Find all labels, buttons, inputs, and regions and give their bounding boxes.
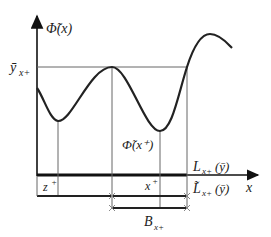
min-value-label: Φ̃(x⁺) <box>122 137 153 152</box>
x-axis-label: x <box>245 180 253 195</box>
y-level-sub: x+ <box>18 67 30 78</box>
z-plus-label: z <box>42 180 48 194</box>
L-label: L <box>192 159 201 174</box>
B-label: B <box>144 214 153 229</box>
x-plus-label: x <box>144 179 151 193</box>
B-sub: x+ <box>153 222 164 232</box>
Ltilde-sub: x+ <box>201 188 212 198</box>
diagram-canvas: Φ̃(x) ȳ x+ Φ̃(x⁺) z + x + x L x+ (ȳ) L̃ … <box>0 0 271 237</box>
y-axis-label: Φ̃(x) <box>46 21 73 37</box>
Ltilde-label: L̃ <box>192 181 201 196</box>
L-sub: x+ <box>201 166 212 176</box>
z-plus-sup: + <box>51 177 57 187</box>
x-plus-sup: + <box>152 176 158 186</box>
L-arg: (ȳ) <box>215 159 229 174</box>
phi-curve <box>37 34 232 131</box>
y-level-label: ȳ <box>8 60 17 75</box>
Ltilde-arg: (ȳ) <box>215 181 229 196</box>
